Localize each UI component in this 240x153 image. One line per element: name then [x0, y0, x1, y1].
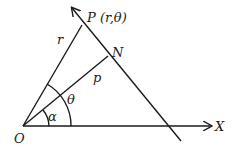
label-segment-p: p	[93, 70, 102, 85]
polar-line-diagram: P (r,θ) N r p θ α O X	[0, 0, 240, 153]
label-angle-alpha: α	[48, 109, 57, 124]
label-point-n: N	[111, 45, 124, 60]
label-point-p: P (r,θ)	[86, 10, 127, 25]
label-segment-r: r	[57, 32, 64, 47]
label-angle-theta: θ	[67, 92, 75, 107]
label-origin: O	[14, 131, 25, 146]
label-x-axis: X	[214, 119, 225, 134]
segment-on	[23, 56, 108, 126]
line-through-p	[72, 8, 181, 141]
